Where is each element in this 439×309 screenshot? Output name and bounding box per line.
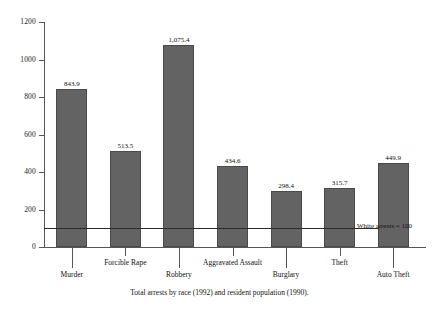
category-label-auto-theft: Auto Theft [348,270,438,279]
reference-line [44,228,379,229]
y-axis-tick-label-text: 800 [4,93,36,101]
y-axis-tick-label-text: 0 [4,243,36,251]
y-axis-tick-label: 200 [0,206,36,214]
x-axis-tick [72,248,73,268]
y-axis-tick-label: 400 [0,168,36,176]
bar-value-label: 1,075.4 [157,36,201,44]
y-axis-tick-label: 0 [0,243,36,251]
bar-value-label: 434.6 [211,157,255,165]
bar [324,188,355,247]
y-axis-tick-label: 1000 [0,56,36,64]
y-axis-tick-label: 1200 [0,18,36,26]
x-axis-tick [233,248,234,256]
reference-line-label: White arrests = 100 [357,222,412,230]
y-axis-tick-label-text: 1200 [4,18,36,26]
bar [56,89,87,247]
bar-value-label: 298.4 [264,182,308,190]
chart-caption: Total arrests by race (1992) and residen… [0,288,439,297]
bar-value-label: 449.9 [371,154,415,162]
category-label-forcible-rape: Forcible Rape [80,258,170,267]
category-label-theft: Theft [295,258,385,267]
category-label-murder: Murder [27,270,117,279]
category-label-burglary: Burglary [241,270,331,279]
bar [271,191,302,247]
x-axis-tick [286,248,287,268]
plot-area: 843.9513.51,075.4434.6298.4315.7449.9 [45,22,420,247]
bar-value-label: 513.5 [103,142,147,150]
y-axis-tick-label: 600 [0,131,36,139]
x-axis-tick [340,248,341,256]
bar [217,166,248,247]
x-axis-line [44,247,426,248]
bar [163,45,194,247]
x-axis-tick [393,248,394,268]
x-axis-tick [125,248,126,256]
y-axis-tick-label-text: 1000 [4,56,36,64]
bar-value-label: 315.7 [318,179,362,187]
category-label-aggravated-assault: Aggravated Assault [188,258,278,267]
category-label-robbery: Robbery [134,270,224,279]
y-axis-tick-label: 800 [0,93,36,101]
bar-chart-figure: 020040060080010001200 843.9513.51,075.44… [0,0,439,309]
x-axis-tick [179,248,180,268]
bar-value-label: 843.9 [50,80,94,88]
y-axis-tick-label-text: 200 [4,206,36,214]
y-axis-tick-label-text: 600 [4,131,36,139]
bar [378,163,409,247]
bar [110,151,141,247]
y-axis-tick-label-text: 400 [4,168,36,176]
